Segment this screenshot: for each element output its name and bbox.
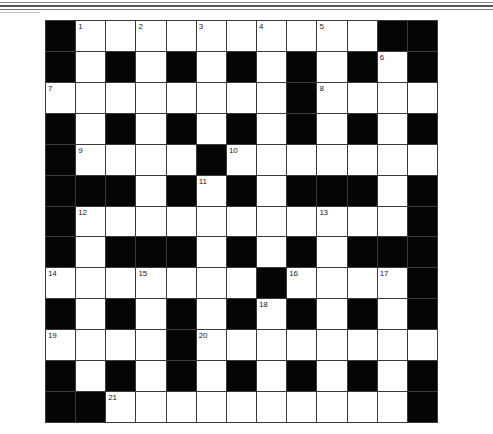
crossword-cell[interactable] [257,176,286,206]
crossword-cell[interactable] [136,361,165,391]
crossword-cell[interactable]: 19 [46,330,75,360]
crossword-cell[interactable] [167,83,196,113]
crossword-cell[interactable] [227,207,256,237]
crossword-cell[interactable] [136,392,165,422]
crossword-cell[interactable] [257,52,286,82]
crossword-cell[interactable] [378,176,407,206]
crossword-cell[interactable] [197,299,226,329]
crossword-cell[interactable] [317,114,346,144]
crossword-cell[interactable] [317,299,346,329]
crossword-cell[interactable] [136,176,165,206]
crossword-cell[interactable]: 18 [257,299,286,329]
crossword-cell[interactable] [317,145,346,175]
crossword-cell[interactable] [378,83,407,113]
crossword-cell[interactable] [76,114,105,144]
crossword-cell[interactable] [227,21,256,51]
crossword-cell[interactable] [317,268,346,298]
crossword-cell[interactable] [136,52,165,82]
crossword-cell[interactable] [257,237,286,267]
crossword-cell[interactable] [257,83,286,113]
crossword-cell[interactable]: 9 [76,145,105,175]
crossword-cell[interactable] [76,299,105,329]
crossword-cell[interactable] [378,145,407,175]
crossword-cell[interactable]: 1 [76,21,105,51]
crossword-cell[interactable] [287,330,316,360]
crossword-cell[interactable] [76,52,105,82]
crossword-cell[interactable] [348,207,377,237]
crossword-cell[interactable] [197,83,226,113]
crossword-cell[interactable] [378,114,407,144]
crossword-cell[interactable] [167,392,196,422]
crossword-cell[interactable] [136,114,165,144]
crossword-cell[interactable]: 12 [76,207,105,237]
crossword-cell[interactable] [317,237,346,267]
crossword-cell[interactable]: 15 [136,268,165,298]
crossword-cell[interactable]: 8 [317,83,346,113]
crossword-cell[interactable] [76,361,105,391]
crossword-cell[interactable] [378,392,407,422]
crossword-cell[interactable] [197,237,226,267]
crossword-cell[interactable] [136,330,165,360]
crossword-cell[interactable]: 21 [106,392,135,422]
crossword-cell[interactable] [106,330,135,360]
crossword-cell[interactable] [106,145,135,175]
crossword-cell[interactable] [378,330,407,360]
crossword-cell[interactable] [227,83,256,113]
crossword-cell[interactable] [197,361,226,391]
crossword-cell[interactable] [197,52,226,82]
crossword-cell[interactable] [167,207,196,237]
crossword-cell[interactable] [287,145,316,175]
crossword-cell[interactable] [167,145,196,175]
crossword-cell[interactable] [348,392,377,422]
crossword-cell[interactable]: 14 [46,268,75,298]
crossword-cell[interactable] [317,330,346,360]
crossword-cell[interactable] [317,392,346,422]
crossword-cell[interactable] [287,21,316,51]
crossword-cell[interactable] [348,83,377,113]
crossword-cell[interactable] [167,268,196,298]
crossword-cell[interactable] [136,83,165,113]
crossword-cell[interactable] [317,52,346,82]
crossword-cell[interactable] [257,330,286,360]
crossword-cell[interactable] [348,145,377,175]
crossword-cell[interactable] [76,237,105,267]
crossword-cell[interactable] [257,392,286,422]
crossword-cell[interactable]: 4 [257,21,286,51]
crossword-cell[interactable] [197,268,226,298]
crossword-cell[interactable]: 13 [317,207,346,237]
crossword-cell[interactable] [106,268,135,298]
crossword-cell[interactable] [197,392,226,422]
crossword-cell[interactable] [136,145,165,175]
crossword-cell[interactable]: 7 [46,83,75,113]
crossword-cell[interactable] [287,207,316,237]
crossword-cell[interactable] [167,21,196,51]
crossword-cell[interactable] [348,268,377,298]
crossword-cell[interactable] [76,268,105,298]
crossword-cell[interactable]: 3 [197,21,226,51]
crossword-cell[interactable] [227,268,256,298]
crossword-cell[interactable] [257,207,286,237]
crossword-cell[interactable]: 10 [227,145,256,175]
crossword-cell[interactable] [317,361,346,391]
crossword-cell[interactable] [348,21,377,51]
crossword-cell[interactable] [106,207,135,237]
crossword-cell[interactable] [408,145,437,175]
crossword-cell[interactable] [378,361,407,391]
crossword-cell[interactable] [287,392,316,422]
crossword-cell[interactable]: 20 [197,330,226,360]
crossword-cell[interactable]: 11 [197,176,226,206]
crossword-cell[interactable] [378,299,407,329]
crossword-cell[interactable] [348,330,377,360]
crossword-cell[interactable] [378,207,407,237]
crossword-cell[interactable] [106,83,135,113]
crossword-cell[interactable] [257,145,286,175]
crossword-cell[interactable] [257,361,286,391]
crossword-cell[interactable] [76,83,105,113]
crossword-cell[interactable]: 17 [378,268,407,298]
crossword-cell[interactable]: 6 [378,52,407,82]
crossword-cell[interactable] [227,330,256,360]
crossword-cell[interactable] [136,207,165,237]
crossword-cell[interactable]: 5 [317,21,346,51]
crossword-cell[interactable] [76,330,105,360]
crossword-cell[interactable]: 2 [136,21,165,51]
